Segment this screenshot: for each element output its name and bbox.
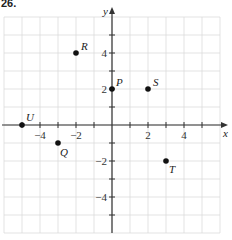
- y-axis-arrow-icon: [109, 7, 115, 14]
- coordinate-plane: xy−4−22442−2−4PQRSTU: [0, 0, 232, 240]
- y-axis-label: y: [102, 5, 108, 17]
- x-tick-label: −4: [34, 129, 46, 141]
- point-t: [163, 158, 169, 164]
- point-r: [73, 50, 79, 56]
- point-q: [55, 140, 61, 146]
- point-label-r: R: [80, 40, 88, 52]
- point-label-q: Q: [60, 146, 68, 158]
- point-label-u: U: [26, 111, 35, 123]
- y-tick-label: −4: [95, 191, 107, 203]
- x-tick-label: −2: [70, 129, 82, 141]
- point-u: [19, 122, 25, 128]
- point-label-t: T: [169, 163, 176, 175]
- x-axis-label: x: [222, 127, 228, 139]
- y-tick-label: −2: [95, 155, 107, 167]
- y-tick-label: 2: [102, 83, 108, 95]
- point-p: [109, 86, 115, 92]
- x-tick-label: 4: [181, 129, 187, 141]
- point-label-s: S: [153, 76, 159, 88]
- y-tick-label: 4: [102, 47, 108, 59]
- point-s: [145, 86, 151, 92]
- point-label-p: P: [115, 76, 123, 88]
- x-tick-label: 2: [145, 129, 151, 141]
